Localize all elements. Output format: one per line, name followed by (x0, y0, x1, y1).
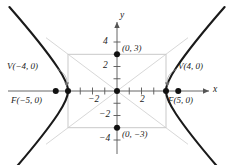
hyperbola-left-branch (9, 7, 68, 165)
hyperbola-plot (0, 0, 229, 165)
x-tick-label-neg2: −2 (88, 95, 99, 105)
right-focus-label: F(5, 0) (168, 96, 193, 105)
y-axis-label: y (120, 11, 124, 21)
point-left-vertex (65, 88, 71, 94)
right-vertex-label: V(4, 0) (178, 62, 203, 71)
y-tick-label-2: 2 (103, 61, 108, 71)
point-center (114, 88, 120, 94)
covertex-bottom-label: (0, −3) (122, 130, 148, 139)
point-covertex-top (114, 51, 120, 57)
point-right-vertex (163, 88, 169, 94)
y-tick-label-neg2: −2 (99, 110, 110, 120)
y-tick-label-4: 4 (103, 37, 108, 47)
x-axis-label: x (213, 85, 217, 95)
point-left-focus (53, 88, 59, 94)
point-covertex-bottom (114, 125, 120, 131)
left-vertex-label: V(−4, 0) (7, 62, 38, 71)
hyperbola-figure: −2 2 4 2 −2 −4 x y V(−4, 0) F(−5, 0) V(4… (0, 0, 229, 165)
y-tick-label-neg4: −4 (99, 134, 110, 144)
x-axis-arrow (203, 88, 209, 93)
x-tick-label-pos2: 2 (140, 95, 145, 105)
covertex-top-label: (0, 3) (122, 44, 142, 53)
y-axis-arrow (114, 22, 119, 28)
left-focus-label: F(−5, 0) (11, 96, 42, 105)
point-right-focus (175, 88, 181, 94)
